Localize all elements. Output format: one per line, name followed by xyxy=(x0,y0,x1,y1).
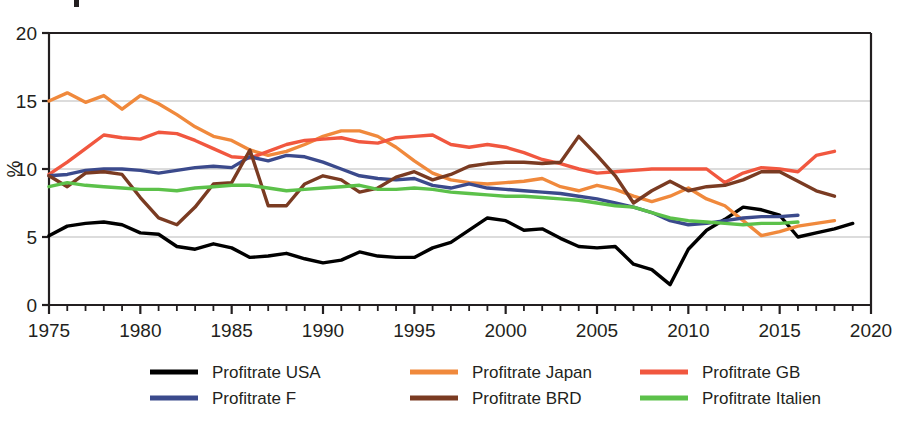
x-tick-label: 1990 xyxy=(302,320,344,341)
legend-item: Profitrate F xyxy=(150,389,296,408)
series-line-profitrate-japan xyxy=(49,93,834,236)
legend-label: Profitrate GB xyxy=(702,363,800,382)
data-series xyxy=(49,93,853,285)
x-tick-label: 2020 xyxy=(850,320,892,341)
x-tick-label: 1975 xyxy=(28,320,70,341)
series-line-profitrate-brd xyxy=(49,136,834,224)
x-tick-label: 1985 xyxy=(211,320,253,341)
line-chart-canvas: 0510152019751980198519901995200020052010… xyxy=(0,0,897,423)
y-tick-label: 0 xyxy=(26,295,37,316)
legend-item: Profitrate USA xyxy=(150,363,321,382)
legend-label: Profitrate Italien xyxy=(702,389,821,408)
legend-label: Profitrate Japan xyxy=(472,363,592,382)
legend-label: Profitrate F xyxy=(212,389,296,408)
y-tick-label: 20 xyxy=(16,23,37,44)
y-tick-label: 5 xyxy=(26,227,37,248)
legend-item: Profitrate Italien xyxy=(640,389,821,408)
legend-item: Profitrate GB xyxy=(640,363,800,382)
legend-label: Profitrate BRD xyxy=(472,389,582,408)
x-tick-label: 1980 xyxy=(119,320,161,341)
cropped-mark xyxy=(74,0,79,7)
x-tick-label: 2015 xyxy=(759,320,801,341)
x-tick-label: 2000 xyxy=(485,320,527,341)
y-tick-label: 15 xyxy=(16,91,37,112)
y-axis-title-text: % xyxy=(3,160,24,177)
legend-label: Profitrate USA xyxy=(212,363,321,382)
x-tick-label: 2005 xyxy=(576,320,618,341)
y-axis-title: % xyxy=(3,160,24,177)
chart-figure: 0510152019751980198519901995200020052010… xyxy=(0,0,897,423)
x-tick-label: 1995 xyxy=(393,320,435,341)
legend-item: Profitrate BRD xyxy=(410,389,582,408)
legend-item: Profitrate Japan xyxy=(410,363,592,382)
chart-legend: Profitrate USAProfitrate JapanProfitrate… xyxy=(150,363,821,408)
x-tick-label: 2010 xyxy=(667,320,709,341)
